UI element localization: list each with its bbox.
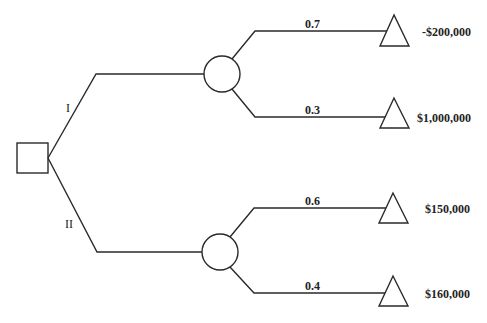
payoff-label: $160,000 [425, 288, 470, 300]
terminal-triangle-icon [380, 98, 409, 128]
terminal-triangle-icon [379, 276, 408, 306]
chance-node-ii-circle [202, 234, 238, 270]
branch-label-ii: II [65, 218, 73, 230]
decision-node-square [17, 143, 48, 173]
chance-node-i-circle [204, 56, 240, 92]
decision-tree-canvas [0, 0, 487, 323]
payoff-label: $150,000 [425, 203, 470, 215]
payoff-label: $1,000,000 [417, 112, 471, 124]
branch-ii-line [48, 158, 202, 252]
probability-label: 0.3 [305, 104, 320, 116]
probability-label: 0.7 [305, 18, 320, 30]
branch-i-line [48, 74, 204, 158]
probability-label: 0.4 [305, 280, 320, 292]
branch-label-i: I [66, 102, 70, 114]
payoff-label: -$200,000 [422, 26, 471, 38]
probability-label: 0.6 [305, 195, 320, 207]
outcome-line-ii-1 [230, 208, 386, 237]
outcome-line-i-1 [232, 31, 387, 59]
